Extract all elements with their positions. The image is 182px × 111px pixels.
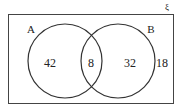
venn-diagram: ξ A B 42 8 32 18 <box>0 0 182 111</box>
set-a-label: A <box>27 23 35 35</box>
b-only-value: 32 <box>124 56 136 70</box>
set-b-label: B <box>147 23 154 35</box>
intersection-value: 8 <box>88 56 94 70</box>
universal-set-symbol: ξ <box>165 2 169 12</box>
outside-value: 18 <box>156 56 168 70</box>
a-only-value: 42 <box>44 56 56 70</box>
